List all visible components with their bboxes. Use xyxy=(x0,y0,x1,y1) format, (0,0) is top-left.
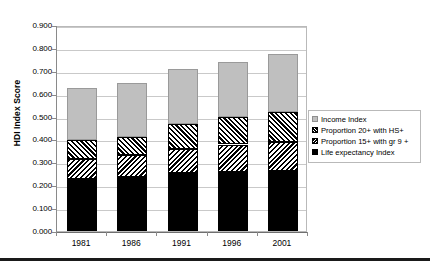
plot-area xyxy=(56,26,307,232)
x-axis-tick-mark xyxy=(207,232,208,236)
x-axis-tick-mark xyxy=(307,232,308,236)
y-axis-ticks: 0.9000.8000.7000.6000.5000.4000.3000.200… xyxy=(0,0,52,269)
y-axis-tick-mark xyxy=(52,95,56,96)
bar-group[interactable] xyxy=(168,25,198,231)
x-axis-line xyxy=(56,232,308,233)
bars-layer xyxy=(57,27,306,231)
income-swatch-icon xyxy=(312,116,318,122)
y-axis-tick-label: 0.000 xyxy=(8,228,52,236)
bar-segment[interactable] xyxy=(218,172,248,231)
y-axis-line xyxy=(56,26,57,233)
bar-segment[interactable] xyxy=(168,69,198,124)
bar-segment[interactable] xyxy=(268,142,298,171)
bar-segment[interactable] xyxy=(218,117,248,145)
gr9-swatch-icon xyxy=(312,138,318,144)
y-axis-tick-mark xyxy=(52,26,56,27)
bar-segment[interactable] xyxy=(67,159,97,179)
x-axis-tick-label: 2001 xyxy=(252,238,312,248)
bar-segment[interactable] xyxy=(117,177,147,231)
bar-segment[interactable] xyxy=(168,173,198,231)
legend-item-label: Income Index xyxy=(321,115,367,124)
bar-segment[interactable] xyxy=(218,145,248,172)
x-axis-tick-mark xyxy=(106,232,107,236)
bar-segment[interactable] xyxy=(218,62,248,117)
y-axis-title: HDI Index Score xyxy=(12,58,22,168)
legend-item[interactable]: Proportion 20+ with HS+ xyxy=(312,125,417,135)
y-axis-tick-label: 0.100 xyxy=(8,205,52,213)
bar-group[interactable] xyxy=(268,25,298,231)
y-axis-tick-label: 0.200 xyxy=(8,182,52,190)
bar-group[interactable] xyxy=(67,25,97,231)
legend-item-label: Proportion 20+ with HS+ xyxy=(321,126,404,135)
bar-segment[interactable] xyxy=(117,155,147,176)
hs-swatch-icon xyxy=(312,127,318,133)
bar-segment[interactable] xyxy=(168,149,198,173)
page-divider-rule xyxy=(0,258,430,261)
bar-group[interactable] xyxy=(218,25,248,231)
x-axis-tick-mark xyxy=(156,232,157,236)
bar-segment[interactable] xyxy=(67,179,97,231)
bar-segment[interactable] xyxy=(117,137,147,156)
bar-segment[interactable] xyxy=(67,88,97,140)
legend-item[interactable]: Income Index xyxy=(312,114,417,124)
legend-item-label: Proportion 15+ with gr 9 + xyxy=(321,137,408,146)
y-axis-tick-mark xyxy=(52,140,56,141)
bar-segment[interactable] xyxy=(268,54,298,112)
legend-item-label: Life expectancy Index xyxy=(321,148,394,157)
legend-item[interactable]: Life expectancy Index xyxy=(312,147,417,157)
y-axis-tick-mark xyxy=(52,209,56,210)
y-axis-tick-mark xyxy=(52,72,56,73)
y-axis-tick-label: 0.900 xyxy=(8,22,52,30)
y-axis-tick-label: 0.800 xyxy=(8,45,52,53)
y-axis-tick-mark xyxy=(52,186,56,187)
bar-segment[interactable] xyxy=(268,112,298,142)
legend-item[interactable]: Proportion 15+ with gr 9 + xyxy=(312,136,417,146)
life-swatch-icon xyxy=(312,149,318,155)
stacked-bar-chart: 0.9000.8000.7000.6000.5000.4000.3000.200… xyxy=(0,0,430,269)
bar-segment[interactable] xyxy=(268,171,298,231)
y-axis-tick-mark xyxy=(52,163,56,164)
y-axis-tick-mark xyxy=(52,118,56,119)
bar-segment[interactable] xyxy=(67,140,97,159)
bar-group[interactable] xyxy=(117,25,147,231)
x-axis-tick-mark xyxy=(56,232,57,236)
bar-segment[interactable] xyxy=(117,83,147,136)
chart-legend: Income IndexProportion 20+ with HS+Propo… xyxy=(308,110,421,163)
y-axis-tick-mark xyxy=(52,49,56,50)
x-axis-tick-mark xyxy=(257,232,258,236)
bar-segment[interactable] xyxy=(168,124,198,148)
